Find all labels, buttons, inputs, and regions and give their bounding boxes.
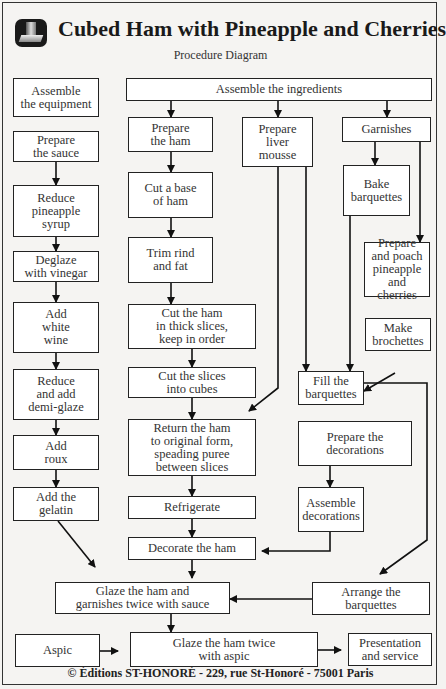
step-reduce-demiglaze: Reduce and add demi-glaze bbox=[13, 369, 99, 420]
step-reduce-pineapple-syrup: Reduce pineapple syrup bbox=[13, 185, 99, 237]
step-refrigerate: Refrigerate bbox=[128, 496, 256, 519]
step-cut-base: Cut a base of ham bbox=[128, 172, 213, 218]
step-aspic: Aspic bbox=[15, 634, 100, 667]
step-prepare-decorations: Prepare the decorations bbox=[298, 421, 412, 466]
step-garnishes: Garnishes bbox=[342, 117, 431, 142]
step-decorate-ham: Decorate the ham bbox=[128, 537, 256, 560]
chef-hat-logo-icon bbox=[15, 19, 47, 47]
step-cut-cubes: Cut the slices into cubes bbox=[128, 367, 256, 398]
step-glaze-with-sauce: Glaze the ham and garnishes twice with s… bbox=[55, 582, 230, 614]
step-add-gelatin: Add the gelatin bbox=[13, 487, 99, 521]
step-make-brochettes: Make brochettes bbox=[365, 318, 431, 351]
step-bake-barquettes: Bake barquettes bbox=[343, 165, 410, 216]
step-arrange-barquettes: Arrange the barquettes bbox=[312, 582, 430, 615]
copyright-footer: © Éditions ST-HONORÉ - 229, rue St-Honor… bbox=[0, 666, 441, 681]
step-assemble-ingredients: Assemble the ingredients bbox=[126, 78, 432, 101]
step-prepare-ham: Prepare the ham bbox=[128, 117, 213, 152]
step-add-roux: Add roux bbox=[13, 435, 99, 470]
step-assemble-equipment: Assemble the equipment bbox=[13, 78, 99, 117]
step-fill-barquettes: Fill the barquettes bbox=[298, 371, 364, 405]
page-subtitle: Procedure Diagram bbox=[0, 48, 441, 63]
step-return-ham-form: Return the ham to original form, speadin… bbox=[128, 419, 256, 476]
step-prepare-liver-mousse: Prepare liver mousse bbox=[242, 117, 313, 167]
step-deglaze-vinegar: Deglaze with vinegar bbox=[13, 251, 99, 282]
step-glaze-with-aspic: Glaze the ham twice with aspic bbox=[130, 632, 318, 667]
page-title: Cubed Ham with Pineapple and Cherries bbox=[58, 16, 446, 42]
step-add-white-wine: Add white wine bbox=[13, 302, 99, 353]
step-prepare-sauce: Prepare the sauce bbox=[13, 131, 99, 162]
step-poach-pineapple-cherries: Prepare and poach pineapple and cherries bbox=[364, 242, 430, 297]
step-cut-thick-slices: Cut the ham in thick slices, keep in ord… bbox=[128, 304, 256, 349]
step-assemble-decorations: Assemble decorations bbox=[298, 487, 364, 532]
step-trim-rind: Trim rind and fat bbox=[128, 237, 213, 283]
step-presentation-service: Presentation and service bbox=[348, 633, 432, 666]
